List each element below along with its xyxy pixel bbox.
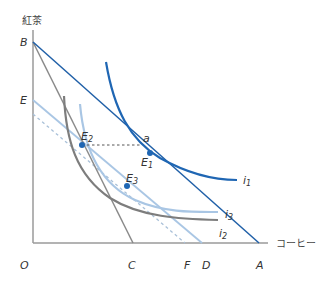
label-i1: i1 (243, 174, 251, 188)
label-E3: E3 (126, 172, 138, 186)
label-A: A (255, 259, 264, 272)
label-D: D (202, 259, 210, 272)
label-B: B (20, 36, 28, 49)
label-F: F (184, 259, 191, 272)
origin-label: O (20, 259, 29, 272)
y-axis-label: 紅茶 (22, 14, 42, 26)
label-E: E (20, 94, 27, 107)
label-a: a (143, 132, 150, 145)
label-E2: E2 (81, 130, 93, 144)
indifference-curve-i1 (106, 62, 237, 180)
x-axis-label: コーヒー (276, 238, 316, 249)
label-C: C (128, 259, 136, 272)
label-i3: i3 (225, 208, 233, 222)
label-i2: i2 (219, 227, 227, 241)
indifference-curve-diagram: 紅茶 コーヒー O B E C F D A a E1 E2 E3 i1 i3 i… (0, 0, 330, 286)
budget-line-ED (33, 100, 202, 243)
budget-line-dashed (33, 114, 185, 243)
label-E1: E1 (141, 156, 153, 170)
